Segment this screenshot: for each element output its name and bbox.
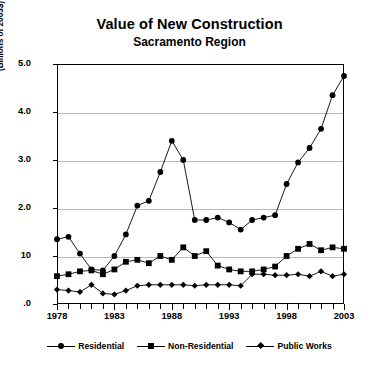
data-point <box>123 287 129 293</box>
data-point <box>272 264 278 270</box>
x-tick-mark <box>344 304 345 310</box>
data-point <box>192 283 198 289</box>
circle-icon <box>47 342 75 351</box>
data-point <box>215 282 221 288</box>
data-point <box>54 273 60 279</box>
data-point <box>134 283 140 289</box>
data-point <box>330 92 336 98</box>
y-tick-label: 4.0 <box>0 106 31 116</box>
data-point <box>226 282 232 288</box>
data-point <box>341 73 347 79</box>
data-point <box>261 215 267 221</box>
data-point <box>318 126 324 132</box>
x-tick-mark <box>195 304 196 309</box>
data-point <box>238 227 244 233</box>
data-point <box>180 282 186 288</box>
data-point <box>284 253 290 259</box>
x-tick-label: 1978 <box>37 311 77 321</box>
data-point <box>307 145 313 151</box>
data-point <box>329 273 335 279</box>
diamond-icon <box>246 342 274 351</box>
data-point <box>157 253 163 259</box>
data-point <box>157 282 163 288</box>
data-point <box>54 287 60 293</box>
data-point <box>341 271 347 277</box>
data-point <box>203 282 209 288</box>
x-tick-label: 1993 <box>209 311 249 321</box>
legend-label: Residential <box>78 341 124 351</box>
data-point <box>146 282 152 288</box>
legend-item-residential[interactable]: Residential <box>47 341 124 351</box>
data-point <box>226 220 232 226</box>
data-point <box>134 203 140 209</box>
y-tick-label: 2.0 <box>0 202 31 212</box>
data-point <box>226 267 232 273</box>
data-point <box>146 260 152 266</box>
data-point <box>169 282 175 288</box>
data-point <box>249 217 255 223</box>
data-point <box>100 271 106 277</box>
x-tick-label: 2003 <box>324 311 364 321</box>
data-point <box>123 259 129 265</box>
data-point <box>134 257 140 263</box>
x-tick-mark <box>333 304 334 309</box>
x-tick-mark <box>206 304 207 309</box>
chart-root: Value of New Construction Sacramento Reg… <box>0 0 379 371</box>
x-tick-mark <box>218 304 219 309</box>
x-tick-mark <box>57 304 58 310</box>
data-point <box>318 247 324 253</box>
x-tick-mark <box>229 304 230 310</box>
data-point <box>169 138 175 144</box>
x-tick-mark <box>149 304 150 309</box>
x-tick-mark <box>252 304 253 309</box>
x-tick-mark <box>287 304 288 310</box>
data-point <box>284 272 290 278</box>
x-tick-mark <box>80 304 81 309</box>
data-point <box>306 273 312 279</box>
series-line <box>57 76 344 270</box>
y-tick-label: .0 <box>0 298 31 308</box>
data-point <box>284 181 290 187</box>
x-tick-mark <box>310 304 311 309</box>
data-point <box>180 157 186 163</box>
data-point <box>123 232 129 238</box>
x-tick-label: 1988 <box>152 311 192 321</box>
x-tick-mark <box>275 304 276 309</box>
data-point <box>112 267 118 273</box>
x-tick-mark <box>91 304 92 309</box>
data-point <box>215 263 221 269</box>
data-point <box>238 268 244 274</box>
data-point <box>54 236 60 242</box>
data-point <box>112 253 118 259</box>
chart-subtitle: Sacramento Region <box>0 35 379 49</box>
data-point <box>77 251 83 257</box>
data-point <box>295 271 301 277</box>
data-point <box>272 212 278 218</box>
x-tick-mark <box>160 304 161 309</box>
x-tick-mark <box>114 304 115 310</box>
x-tick-mark <box>103 304 104 309</box>
x-tick-mark <box>321 304 322 309</box>
chart-title: Value of New Construction <box>0 16 379 32</box>
data-point <box>146 198 152 204</box>
legend-label: Non-Residential <box>168 341 233 351</box>
legend-item-non-residential[interactable]: Non-Residential <box>137 341 233 351</box>
y-tick-label: 10 <box>0 250 31 260</box>
x-tick-mark <box>68 304 69 309</box>
data-point <box>180 244 186 250</box>
x-tick-mark <box>298 304 299 309</box>
data-point <box>77 268 83 274</box>
series-layer <box>57 64 344 304</box>
data-point <box>157 169 163 175</box>
series-non-residential <box>54 241 347 279</box>
data-point <box>330 244 336 250</box>
x-tick-mark <box>264 304 265 309</box>
data-point <box>307 241 313 247</box>
data-point <box>272 272 278 278</box>
chart-legend: ResidentialNon-ResidentialPublic Works <box>0 341 379 351</box>
data-point <box>318 268 324 274</box>
legend-item-public-works[interactable]: Public Works <box>246 341 331 351</box>
data-point <box>192 253 198 259</box>
data-point <box>192 217 198 223</box>
y-axis-label-wrap: (Billions of 2003$) <box>0 0 10 96</box>
